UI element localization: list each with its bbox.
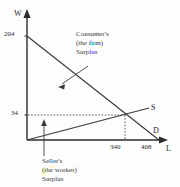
seller-surplus-line-2: (the worker) xyxy=(42,166,77,175)
y-axis-label: W xyxy=(14,10,22,19)
consumer-surplus-line-3: Surplus xyxy=(76,48,109,57)
seller-surplus-annotation: Seller's (the worker) Surplus xyxy=(42,157,77,183)
x-axis-arrowhead xyxy=(159,136,168,143)
y-tick-label-34: 34 xyxy=(11,110,18,118)
plot-canvas xyxy=(0,0,180,187)
y-axis-arrowhead xyxy=(23,9,30,18)
x-axis-label: L xyxy=(166,145,171,154)
seller-surplus-line-1: Seller's xyxy=(42,157,77,166)
x-tick-label-408: 408 xyxy=(141,144,152,152)
consumer-surplus-arrowhead xyxy=(58,84,65,89)
seller-surplus-line-3: Surplus xyxy=(42,175,77,184)
consumer-surplus-annotation: Consumer's (the firm) Surplus xyxy=(76,30,109,56)
y-tick-label-204: 204 xyxy=(4,31,15,39)
seller-surplus-arrowhead xyxy=(41,119,47,126)
consumer-surplus-line-2: (the firm) xyxy=(76,39,109,48)
demand-curve-label: D xyxy=(153,127,159,136)
consumer-surplus-line-1: Consumer's xyxy=(76,30,109,39)
supply-curve-label: S xyxy=(151,104,155,113)
supply-demand-figure: W L 204 34 340 408 S D Consumer's (the f… xyxy=(0,0,180,187)
x-tick-label-340: 340 xyxy=(110,144,121,152)
